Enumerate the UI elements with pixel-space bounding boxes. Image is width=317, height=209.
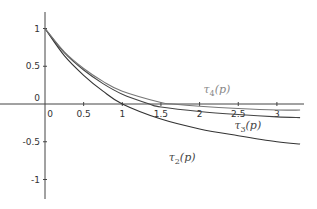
x-tick-label: 1 [119, 109, 125, 119]
curves [45, 29, 300, 145]
x-tick-label: 0 [47, 109, 53, 119]
y-tick-label: 0 [34, 93, 40, 103]
y-tick-label: -0.5 [22, 137, 40, 147]
curve-label-tau4: τ4(p) [203, 83, 230, 98]
x-tick-label: 2 [197, 109, 203, 119]
curve-label-tau3: τ3(p) [234, 119, 261, 134]
curve-label-tau2: τ2(p) [169, 151, 196, 166]
y-tick-label: -1 [31, 175, 40, 185]
line-chart: 00.511.522.5310.50-0.5-1 τ2(p)τ3(p)τ4(p) [0, 0, 317, 209]
x-tick-label: 0.5 [76, 109, 90, 119]
y-tick-label: 0.5 [26, 61, 40, 71]
curve-tau2 [45, 29, 300, 145]
labels: τ2(p)τ3(p)τ4(p) [169, 83, 262, 166]
y-tick-label: 1 [34, 24, 40, 34]
